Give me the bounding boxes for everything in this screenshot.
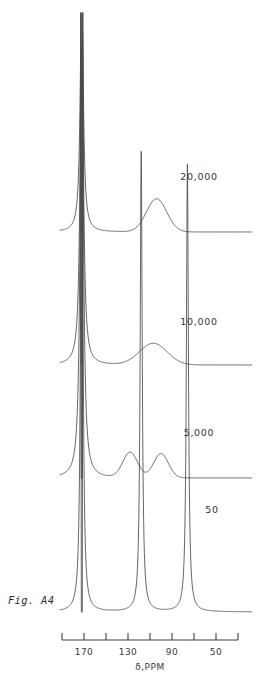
- spectrum-trace: [60, 26, 252, 478]
- spectrum-trace: [60, 14, 252, 365]
- spectrum-trace: [60, 50, 252, 611]
- spectra-traces: [60, 13, 252, 612]
- figure-container: 20,00010,0005,00050 1701309050 δ,PPM Fig…: [0, 0, 263, 681]
- trace-label-20000: 20,000: [180, 171, 217, 182]
- trace-label-50: 50: [205, 504, 219, 515]
- nmr-spectra-figure: 20,00010,0005,00050 1701309050 δ,PPM Fig…: [0, 0, 263, 681]
- x-axis: 1701309050: [62, 633, 238, 657]
- axis-tick-labels: 1701309050: [75, 647, 222, 657]
- spectrum-peak-stem: [81, 13, 83, 612]
- axis-tick-marks: [62, 633, 238, 640]
- axis-tick-label-90: 90: [166, 647, 178, 657]
- spectrum-trace: [60, 17, 252, 232]
- axis-tick-label-50: 50: [210, 647, 222, 657]
- figure-caption: Fig. A4: [8, 594, 54, 606]
- axis-tick-label-170: 170: [75, 647, 93, 657]
- axis-tick-label-130: 130: [119, 647, 137, 657]
- trace-label-10000: 10,000: [180, 316, 217, 327]
- axis-title: δ,PPM: [135, 662, 165, 672]
- trace-label-5000: 5,000: [184, 427, 215, 438]
